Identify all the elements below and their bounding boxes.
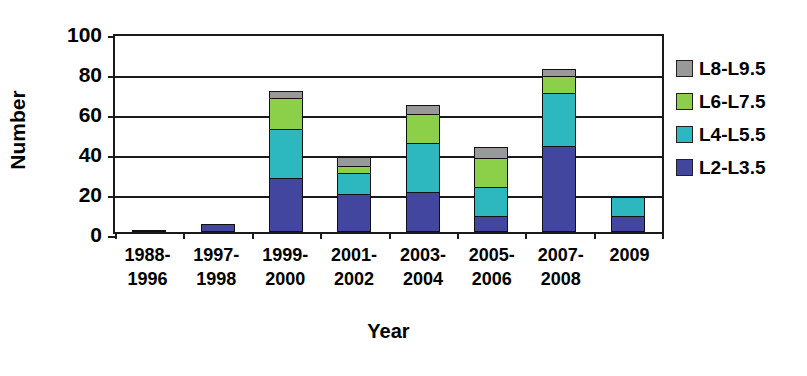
- bar-stack[interactable]: [611, 197, 645, 232]
- bar-segment[interactable]: [474, 216, 508, 232]
- y-tick-label: 60: [20, 104, 102, 125]
- x-tickmark: [389, 232, 391, 239]
- bar-group[interactable]: [183, 36, 251, 232]
- bar-stack[interactable]: [474, 147, 508, 232]
- y-tickmark: [108, 236, 115, 238]
- legend-label: L8-L9.5: [699, 58, 766, 80]
- x-axis-tick-labels: 1988- 19961997- 19981999- 20002001- 2002…: [113, 243, 664, 305]
- bar-stack[interactable]: [132, 230, 166, 232]
- bar-segment[interactable]: [406, 114, 440, 144]
- x-tickmark: [115, 232, 117, 239]
- legend-item[interactable]: L6-L7.5: [676, 85, 804, 118]
- legend-swatch-icon: [676, 126, 693, 143]
- stacked-bar-chart: Number 100806040200 1988- 19961997- 1998…: [0, 0, 807, 376]
- bar-segment[interactable]: [611, 197, 645, 217]
- x-tickmark: [457, 232, 459, 239]
- bar-stack[interactable]: [201, 224, 235, 232]
- bar-segment[interactable]: [542, 93, 576, 147]
- legend-label: L4-L5.5: [699, 124, 766, 146]
- x-tick-label: 2009: [595, 243, 664, 305]
- y-tickmark: [108, 116, 115, 118]
- bar-segment[interactable]: [542, 76, 576, 94]
- bar-group[interactable]: [525, 36, 593, 232]
- bar-group[interactable]: [252, 36, 320, 232]
- legend-item[interactable]: L2-L3.5: [676, 151, 804, 184]
- y-tickmark: [108, 196, 115, 198]
- y-tickmark: [108, 36, 115, 38]
- x-tickmark: [320, 232, 322, 239]
- x-tick-label: 2007- 2008: [526, 243, 595, 305]
- bar-stack[interactable]: [337, 157, 371, 232]
- x-tick-label: 2001- 2002: [320, 243, 389, 305]
- y-tick-label: 100: [20, 24, 102, 45]
- y-tick-label: 80: [20, 64, 102, 85]
- bar-segment[interactable]: [474, 187, 508, 217]
- y-axis-tick-labels: 100806040200: [20, 34, 102, 234]
- bar-segment[interactable]: [132, 230, 166, 232]
- bar-segment[interactable]: [542, 146, 576, 232]
- y-tickmark: [108, 156, 115, 158]
- bar-group[interactable]: [594, 36, 662, 232]
- bar-segment[interactable]: [474, 158, 508, 188]
- x-axis-title: Year: [113, 320, 664, 343]
- bar-group[interactable]: [115, 36, 183, 232]
- x-tick-label: 1999- 2000: [251, 243, 320, 305]
- bar-group[interactable]: [457, 36, 525, 232]
- bar-segment[interactable]: [201, 224, 235, 232]
- plot-area: [113, 34, 664, 234]
- bar-group[interactable]: [320, 36, 388, 232]
- legend-label: L2-L3.5: [699, 157, 766, 179]
- bar-series-container: [115, 36, 662, 232]
- y-tickmark: [108, 76, 115, 78]
- bar-segment[interactable]: [337, 194, 371, 232]
- legend-item[interactable]: L4-L5.5: [676, 118, 804, 151]
- bar-segment[interactable]: [269, 178, 303, 232]
- x-tick-label: 1988- 1996: [113, 243, 182, 305]
- bar-group[interactable]: [389, 36, 457, 232]
- x-tickmark: [183, 232, 185, 239]
- x-tickmark: [525, 232, 527, 239]
- bar-stack[interactable]: [269, 91, 303, 232]
- legend-item[interactable]: L8-L9.5: [676, 52, 804, 85]
- y-tick-label: 0: [20, 224, 102, 245]
- x-tickmark: [594, 232, 596, 239]
- bar-segment[interactable]: [406, 143, 440, 193]
- x-tickmark: [662, 232, 664, 239]
- bar-segment[interactable]: [337, 173, 371, 195]
- y-tick-label: 20: [20, 184, 102, 205]
- legend: L8-L9.5L6-L7.5L4-L5.5L2-L3.5: [676, 52, 804, 184]
- y-tick-label: 40: [20, 144, 102, 165]
- legend-swatch-icon: [676, 60, 693, 77]
- legend-swatch-icon: [676, 93, 693, 110]
- x-tick-label: 1997- 1998: [182, 243, 251, 305]
- legend-swatch-icon: [676, 159, 693, 176]
- bar-segment[interactable]: [269, 129, 303, 179]
- bar-segment[interactable]: [269, 98, 303, 130]
- bar-stack[interactable]: [542, 69, 576, 232]
- bar-segment[interactable]: [611, 216, 645, 232]
- x-tickmark: [252, 232, 254, 239]
- legend-label: L6-L7.5: [699, 91, 766, 113]
- x-tick-label: 2005- 2006: [457, 243, 526, 305]
- bar-segment[interactable]: [406, 192, 440, 232]
- x-tick-label: 2003- 2004: [389, 243, 458, 305]
- bar-stack[interactable]: [406, 105, 440, 232]
